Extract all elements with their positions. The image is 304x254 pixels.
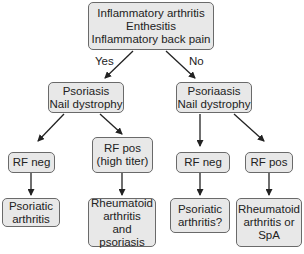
right-outcome-rheumatoid-or-spa: Rheumatoid arthritis or SpA xyxy=(236,198,302,247)
right-rf-pos-label: RF pos xyxy=(250,156,287,169)
left-outcome-pos-line-2: arthritis xyxy=(103,210,141,223)
right-node-line-1: Psoriaasis xyxy=(187,85,240,98)
root-node: Inflammatory arthritis Enthesitis Inflam… xyxy=(88,2,214,50)
arrow-left-to-rfpos xyxy=(100,114,122,134)
left-rf-pos-line-1: RF pos xyxy=(104,142,141,155)
left-psoriasis-node: Psoriasis Nail dystrophy xyxy=(48,82,124,113)
right-psoriasis-node: Psoriaasis Nail dystrophy xyxy=(176,82,252,113)
left-rf-pos-node: RF pos (high titer) xyxy=(92,137,153,173)
right-rf-pos-node: RF pos xyxy=(245,152,293,173)
root-line-3: Inflammatory back pain xyxy=(92,33,211,46)
left-outcome-psoriatic-arthritis: Psoriatic arthritis xyxy=(2,198,60,227)
root-line-1: Inflammatory arthritis xyxy=(97,7,204,20)
right-outcome-pos-line-3: SpA xyxy=(258,229,280,242)
left-outcome-pos-line-3: and psoriasis xyxy=(89,223,155,249)
left-node-line-1: Psoriasis xyxy=(63,85,110,98)
left-outcome-neg-line-2: arthritis xyxy=(12,213,50,226)
edge-label-no: No xyxy=(189,55,204,67)
arrow-right-to-rfpos xyxy=(234,114,264,141)
right-rf-neg-node: RF neg xyxy=(176,152,230,173)
left-rf-neg-node: RF neg xyxy=(8,152,55,173)
left-outcome-neg-line-1: Psoriatic xyxy=(9,200,53,213)
left-rf-pos-line-2: (high titer) xyxy=(97,155,149,168)
right-node-line-2: Nail dystrophy xyxy=(178,98,251,111)
left-node-line-2: Nail dystrophy xyxy=(50,98,123,111)
left-outcome-pos-line-1: Rheumatoid xyxy=(91,197,153,210)
right-rf-neg-label: RF neg xyxy=(184,156,222,169)
root-line-2: Enthesitis xyxy=(126,20,176,33)
arrow-left-to-rfneg xyxy=(38,114,64,141)
right-outcome-psoriatic-arthritis-question: Psoriatic arthritis? xyxy=(170,198,230,233)
left-rf-neg-label: RF neg xyxy=(13,156,51,169)
right-outcome-pos-line-2: arthritis or xyxy=(243,216,294,229)
right-outcome-neg-line-1: Psoriatic xyxy=(178,203,222,216)
right-outcome-neg-line-2: arthritis? xyxy=(178,216,222,229)
left-outcome-rheumatoid-and-psoriasis: Rheumatoid arthritis and psoriasis xyxy=(88,198,156,247)
edge-label-yes: Yes xyxy=(95,55,114,67)
right-outcome-pos-line-1: Rheumatoid xyxy=(238,203,300,216)
